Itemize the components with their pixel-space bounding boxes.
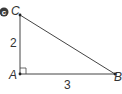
side-ab-length: 3 bbox=[64, 78, 71, 92]
badge-label: c bbox=[2, 8, 7, 17]
vertex-a-dot bbox=[19, 73, 22, 76]
side-cb bbox=[20, 15, 115, 74]
vertex-c-label: C bbox=[11, 4, 20, 18]
vertex-b-label: B bbox=[114, 70, 122, 84]
vertex-a-label: A bbox=[8, 68, 17, 82]
side-ac-length: 2 bbox=[10, 36, 17, 50]
right-triangle-diagram: c C A B 2 3 bbox=[0, 0, 122, 94]
part-badge: c bbox=[0, 8, 9, 18]
